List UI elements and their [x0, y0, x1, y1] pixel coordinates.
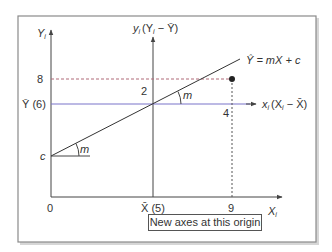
- regression-equation: Ŷ = mX + c: [246, 54, 301, 66]
- x-mean-label: X̄ (5): [141, 202, 165, 214]
- x-deviation-label: 4: [223, 107, 229, 119]
- y-tick-8: 8: [37, 73, 43, 85]
- y-deviation-label: 2: [141, 85, 147, 97]
- x-origin-label: 0: [47, 202, 53, 214]
- slope-label-upper: m: [183, 89, 192, 101]
- slope-label-lower: m: [80, 143, 89, 155]
- x-tick-9: 9: [228, 202, 234, 214]
- y-mean-label: Ȳ (6): [22, 98, 46, 110]
- intercept-label: c: [40, 150, 46, 162]
- caption-box: New axes at this origin: [148, 214, 262, 231]
- data-point: [229, 76, 235, 82]
